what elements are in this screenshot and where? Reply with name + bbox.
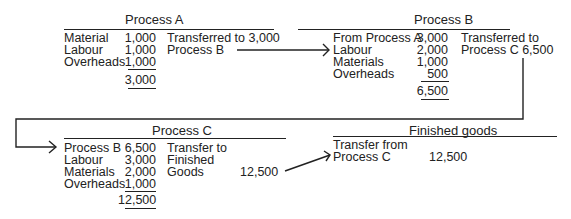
- arrow-b-to-c: [16, 58, 523, 147]
- arrow-c-to-finished: [285, 155, 330, 171]
- flow-connectors: [0, 0, 571, 219]
